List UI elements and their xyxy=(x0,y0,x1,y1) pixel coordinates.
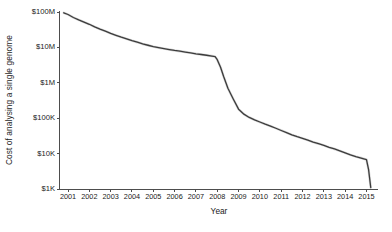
data-line-halo-0 xyxy=(64,13,371,188)
data-series-group xyxy=(64,13,371,188)
plot-area xyxy=(0,0,392,232)
data-line-0 xyxy=(64,13,371,188)
axis-spines xyxy=(57,11,379,192)
genome-cost-chart: Cost of analysing a single genome $100M$… xyxy=(0,0,392,232)
